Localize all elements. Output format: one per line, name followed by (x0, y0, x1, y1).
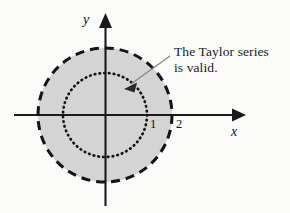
tick-label-2: 2 (176, 117, 182, 132)
taylor-series-figure: y x 1 2 The Taylor series is valid. (0, 0, 290, 213)
annotation-line-1: The Taylor series (174, 44, 269, 60)
annotation-line-2: is valid. (174, 60, 218, 76)
y-axis-arrowhead (99, 13, 112, 28)
x-axis-arrowhead (232, 109, 246, 122)
figure-canvas (0, 0, 290, 213)
x-axis-label: x (231, 124, 237, 140)
tick-label-1: 1 (150, 117, 156, 132)
y-axis-label: y (83, 12, 89, 28)
